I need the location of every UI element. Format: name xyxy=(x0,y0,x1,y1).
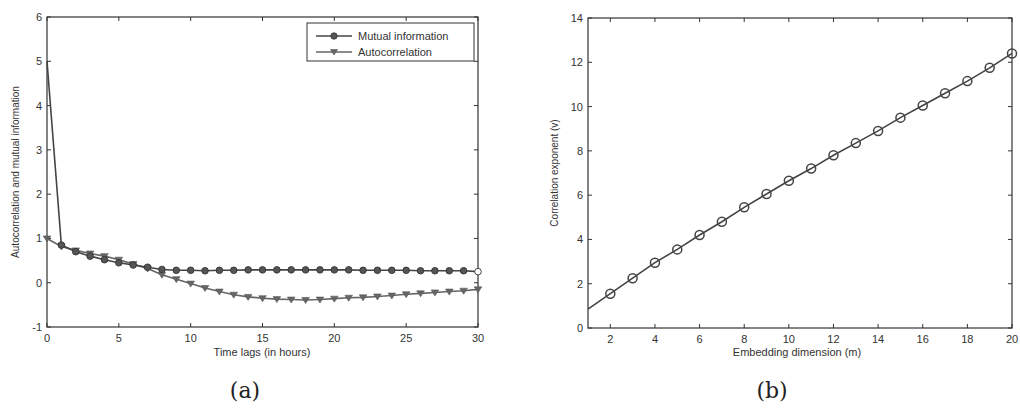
series-line-mutual-information xyxy=(47,61,478,271)
x-tick-label: 2 xyxy=(607,333,613,345)
data-point xyxy=(288,267,295,274)
x-tick-label: 15 xyxy=(256,332,268,344)
y-tick-label: 1 xyxy=(36,232,42,244)
data-point xyxy=(259,267,266,274)
y-tick-label: 4 xyxy=(577,233,583,245)
data-point xyxy=(374,267,381,274)
data-point xyxy=(159,266,166,273)
y-tick-label: 0 xyxy=(36,277,42,289)
legend-circle-marker-icon xyxy=(331,33,337,39)
data-point xyxy=(58,242,65,249)
y-tick-label: 6 xyxy=(577,189,583,201)
chart-a-frame xyxy=(47,17,478,327)
data-point xyxy=(173,267,180,274)
data-point xyxy=(403,267,410,274)
chart-a-legend: Mutual information Autocorrelation xyxy=(307,23,474,61)
y-tick-label: 4 xyxy=(36,100,42,112)
y-tick-label: 14 xyxy=(571,12,583,24)
data-point xyxy=(360,267,367,274)
chart-b-y-axis-label: Correlation exponent (v) xyxy=(549,119,560,226)
chart-b-caption: (b) xyxy=(756,378,787,403)
data-point xyxy=(331,267,338,274)
chart-b-x-axis-label: Embedding dimension (m) xyxy=(733,346,861,358)
chart-b-series xyxy=(588,49,1017,309)
data-point xyxy=(101,256,108,263)
figure: 051015202530-10123456 Time lags (in hour… xyxy=(0,0,1020,417)
chart-a-y-axis-label: Autocorrelation and mutual information xyxy=(10,86,21,258)
x-tick-label: 4 xyxy=(652,333,658,345)
y-tick-label: 3 xyxy=(36,144,42,156)
data-point xyxy=(187,267,194,274)
x-tick-label: 20 xyxy=(328,332,340,344)
x-tick-label: 10 xyxy=(185,332,197,344)
y-tick-label: 2 xyxy=(577,278,583,290)
data-point xyxy=(216,267,223,274)
x-tick-label: 16 xyxy=(917,333,929,345)
data-point xyxy=(446,267,453,274)
x-tick-label: 6 xyxy=(697,333,703,345)
data-point xyxy=(230,267,237,274)
x-tick-label: 10 xyxy=(783,333,795,345)
data-point xyxy=(87,253,94,260)
x-tick-label: 8 xyxy=(741,333,747,345)
data-point xyxy=(144,264,151,271)
series-line-correlation-exponent xyxy=(588,53,1012,309)
y-tick-label: 8 xyxy=(577,145,583,157)
legend-label-mutual-information: Mutual information xyxy=(358,30,449,42)
data-point xyxy=(274,267,281,274)
data-point xyxy=(116,259,123,266)
y-tick-label: 6 xyxy=(36,11,42,23)
chart-a-autocorrelation-mutual-information: 051015202530-10123456 Time lags (in hour… xyxy=(10,11,484,403)
y-tick-label: 12 xyxy=(571,56,583,68)
x-tick-label: 0 xyxy=(44,332,50,344)
x-tick-label: 18 xyxy=(961,333,973,345)
chart-b-correlation-exponent: 246810121416182002468101214 Embedding di… xyxy=(549,12,1018,403)
chart-b-frame xyxy=(588,18,1012,328)
chart-a-caption: (a) xyxy=(230,378,260,403)
data-point xyxy=(130,262,137,269)
y-tick-label: 10 xyxy=(571,101,583,113)
x-tick-label: 25 xyxy=(400,332,412,344)
data-point xyxy=(245,267,252,274)
chart-a-series xyxy=(43,61,482,303)
y-tick-label: -1 xyxy=(32,321,42,333)
data-point xyxy=(345,267,352,274)
data-point xyxy=(317,267,324,274)
data-point xyxy=(302,267,309,274)
x-tick-label: 12 xyxy=(827,333,839,345)
legend-label-autocorrelation: Autocorrelation xyxy=(358,46,432,58)
data-point xyxy=(460,267,467,274)
x-tick-label: 20 xyxy=(1006,333,1018,345)
x-tick-label: 14 xyxy=(872,333,884,345)
y-tick-label: 0 xyxy=(577,322,583,334)
data-point xyxy=(389,267,396,274)
data-point xyxy=(417,267,424,274)
data-point xyxy=(72,248,79,255)
y-tick-label: 5 xyxy=(36,55,42,67)
data-point xyxy=(202,267,209,274)
x-tick-label: 5 xyxy=(116,332,122,344)
x-tick-label: 30 xyxy=(472,332,484,344)
chart-a-x-axis-label: Time lags (in hours) xyxy=(214,346,311,358)
data-point xyxy=(475,268,482,275)
y-tick-label: 2 xyxy=(36,188,42,200)
data-point xyxy=(432,267,439,274)
